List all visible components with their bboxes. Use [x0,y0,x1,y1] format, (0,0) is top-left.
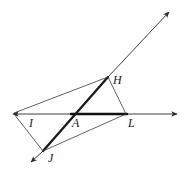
point-label-H: H [113,74,122,86]
segment-J-to-L [43,114,126,151]
point-label-I: I [29,117,33,129]
segment-I-to-H [14,77,108,113]
geometry-diagram-canvas: H I A L J [0,0,191,172]
ray-H-to-upper-right-arrow [108,12,169,77]
ray-lower-left-arrow [31,151,43,162]
geometry-figure [0,0,191,172]
point-label-J: J [48,152,53,164]
point-label-L: L [128,117,135,129]
point-label-A: A [72,117,79,129]
